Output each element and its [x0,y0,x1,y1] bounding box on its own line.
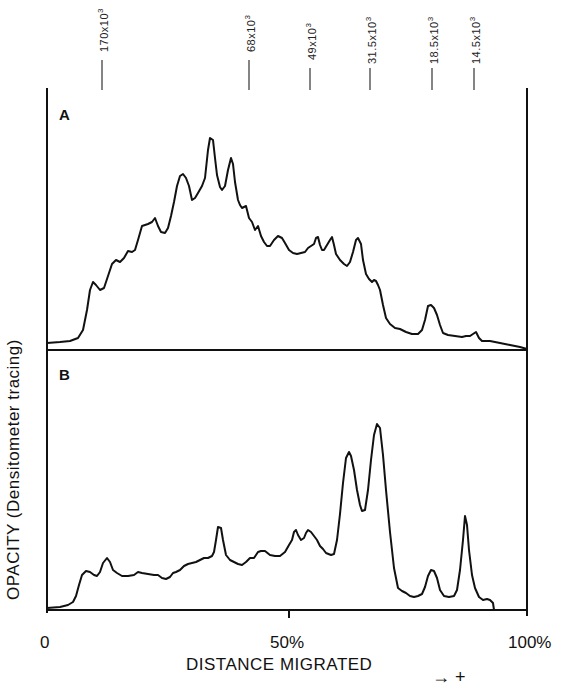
mw-marker-ticks [102,60,474,90]
densitometer-figure [0,0,570,689]
panel-a-trace [47,138,527,349]
x-tick-label-0: 0 [40,633,49,653]
panel-b-trace [47,424,494,610]
axes-frame [47,88,527,618]
direction-arrow-icon: → + [432,667,466,688]
mw-marker-14-5k: 14.5x103 [468,16,482,64]
x-tick-label-50: 50% [270,633,304,653]
mw-marker-49k: 49x103 [304,23,318,60]
panel-a-label: A [59,106,70,123]
mw-marker-170k: 170x103 [96,8,110,52]
panel-b-label: B [59,366,70,383]
mw-marker-68k: 68x103 [243,15,257,52]
mw-marker-18-5k: 18.5x103 [426,16,440,64]
y-axis-label: OPACITY (Densitometer tracing) [4,339,24,600]
mw-marker-31-5k: 31.5x103 [364,16,378,64]
x-axis-label: DISTANCE MIGRATED [186,655,372,675]
x-tick-label-100: 100% [508,633,551,653]
